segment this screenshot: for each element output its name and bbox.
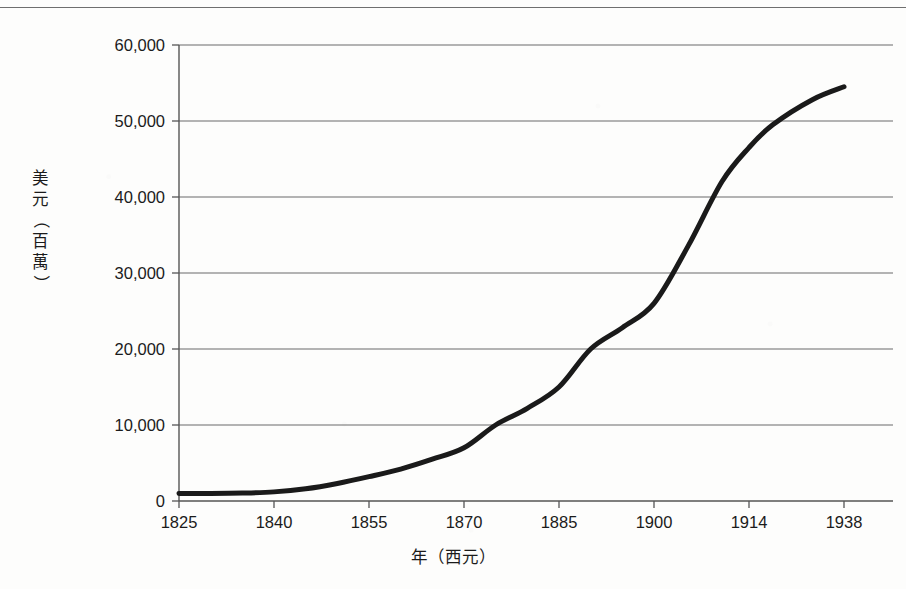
y-axis-ticks	[172, 45, 179, 501]
x-axis-group: 18251840185518701885190019141938	[161, 501, 893, 531]
x-axis-tick-labels: 18251840185518701885190019141938	[161, 513, 863, 531]
y-axis-tick-label: 0	[156, 492, 165, 510]
x-axis-tick-label: 1914	[731, 513, 768, 531]
x-axis-tick-label: 1900	[636, 513, 673, 531]
x-axis-tick-label: 1885	[541, 513, 578, 531]
y-axis-tick-label: 50,000	[115, 112, 165, 130]
y-axis-tick-label: 40,000	[115, 188, 165, 206]
line-chart: 010,00020,00030,00040,00050,00060,000 18…	[0, 0, 906, 589]
x-axis-ticks	[179, 501, 844, 508]
y-axis-tick-label: 30,000	[115, 264, 165, 282]
y-axis-tick-label: 20,000	[115, 340, 165, 358]
y-axis-tick-label: 10,000	[115, 416, 165, 434]
data-series-line	[179, 87, 844, 494]
x-axis-tick-label: 1825	[161, 513, 198, 531]
x-axis-tick-label: 1855	[351, 513, 388, 531]
gridlines-group	[179, 45, 893, 425]
y-axis-group: 010,00020,00030,00040,00050,00060,000	[115, 36, 179, 510]
y-axis-tick-label: 60,000	[115, 36, 165, 54]
x-axis-tick-label: 1938	[826, 513, 863, 531]
chart-page: 美 元 （ 百 萬 ） 年（西元） 010,00020,00030,00040,…	[0, 0, 906, 589]
x-axis-tick-label: 1840	[256, 513, 293, 531]
x-axis-tick-label: 1870	[446, 513, 483, 531]
y-axis-tick-labels: 010,00020,00030,00040,00050,00060,000	[115, 36, 165, 510]
